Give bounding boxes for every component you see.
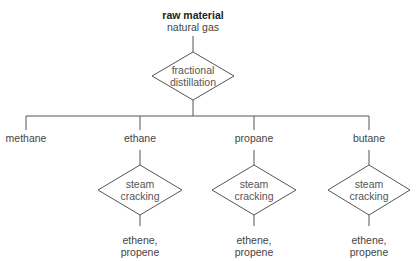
- steam-cracking-label-ethane: steam cracking: [120, 179, 159, 202]
- output-ethane: ethene, propene: [121, 234, 160, 258]
- process-line2: cracking: [349, 190, 388, 202]
- product-propane: propane: [235, 133, 274, 144]
- root-title: raw material: [162, 10, 223, 21]
- product-methane: methane: [6, 133, 47, 144]
- output-line2: propene: [350, 246, 389, 258]
- process-line1: steam: [120, 179, 159, 191]
- process-line1: steam: [234, 179, 273, 191]
- output-line2: propene: [235, 246, 274, 258]
- output-butane: ethene, propene: [350, 234, 389, 258]
- flowchart-connectors: [0, 0, 417, 261]
- process-line2: distillation: [170, 76, 216, 88]
- process-line2: cracking: [234, 190, 273, 202]
- output-propane: ethene, propene: [235, 234, 274, 258]
- product-butane: butane: [353, 133, 385, 144]
- fractional-distillation-label: fractional distillation: [170, 65, 216, 88]
- process-line1: fractional: [170, 65, 216, 77]
- steam-cracking-label-propane: steam cracking: [234, 179, 273, 202]
- output-line1: ethene,: [350, 234, 389, 246]
- output-line1: ethene,: [235, 234, 274, 246]
- output-line2: propene: [121, 246, 160, 258]
- steam-cracking-label-butane: steam cracking: [349, 179, 388, 202]
- process-line1: steam: [349, 179, 388, 191]
- product-ethane: ethane: [124, 133, 156, 144]
- output-line1: ethene,: [121, 234, 160, 246]
- process-line2: cracking: [120, 190, 159, 202]
- root-subtitle: natural gas: [167, 22, 219, 33]
